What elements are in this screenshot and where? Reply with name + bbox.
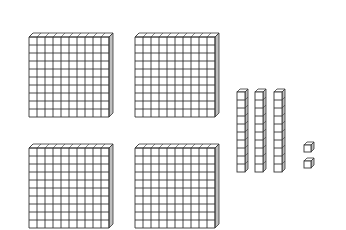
hundreds-flat <box>134 32 220 118</box>
tens-rod <box>254 88 267 173</box>
tens-rod <box>236 88 249 173</box>
hundreds-flat <box>28 143 114 229</box>
tens-rod <box>273 88 286 173</box>
ones-cube <box>303 157 315 169</box>
ones-cube <box>303 141 315 153</box>
hundreds-flat <box>28 32 114 118</box>
hundreds-flat <box>134 143 220 229</box>
